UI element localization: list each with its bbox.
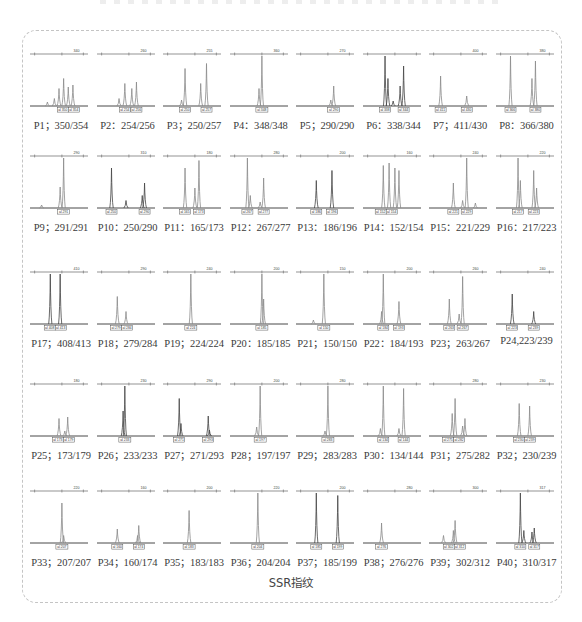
- svg-text:al 239: al 239: [529, 326, 538, 330]
- svg-text:al 174: al 174: [134, 545, 143, 549]
- allele-label-box: al 183: [183, 545, 195, 550]
- allele-peak: [254, 427, 258, 436]
- trace-plot: 160al 152al 154: [363, 150, 425, 226]
- svg-text:al 283: al 283: [323, 438, 332, 442]
- electropherogram-panel: 280al 275al 282P31；275/282: [429, 378, 491, 488]
- trace-plot: 280al 275al 282: [429, 378, 491, 454]
- svg-text:al 230: al 230: [514, 438, 523, 442]
- svg-text:al 267: al 267: [242, 210, 251, 214]
- allele-peak: [465, 96, 469, 106]
- allele-label-box: al 154: [386, 210, 397, 215]
- svg-text:al 223: al 223: [529, 210, 538, 214]
- allele-peak: [457, 314, 461, 324]
- svg-text:al 338: al 338: [380, 108, 389, 112]
- electropherogram-panel: 200al 184al 193P22：184/193: [363, 266, 425, 376]
- allele-peak: [381, 386, 384, 436]
- electropherogram-panel: 340al 350al 354P1；350/354: [30, 48, 92, 158]
- genotype-label: P33；207/207: [24, 554, 98, 569]
- allele-label-box: al 217: [512, 210, 523, 215]
- genotype-label: P38；276/276: [357, 554, 431, 569]
- trace-plot: 240al 223al 239: [496, 266, 558, 342]
- allele-peak: [71, 85, 75, 106]
- allele-peak: [461, 277, 464, 325]
- svg-text:al 196: al 196: [327, 210, 336, 214]
- genotype-label: P39；302/312: [423, 554, 497, 569]
- genotype-label: P24,223/239: [490, 335, 564, 346]
- allele-label-box: al 229: [461, 210, 472, 215]
- ruler-label: 220: [73, 486, 79, 490]
- allele-label-box: al 279: [110, 326, 121, 331]
- svg-text:al 183: al 183: [184, 545, 193, 549]
- allele-label-box: al 193: [393, 326, 404, 331]
- allele-label-box: al 199: [332, 545, 343, 550]
- ruler-label: 290: [73, 151, 79, 155]
- allele-peak: [465, 158, 468, 208]
- allele-peak: [311, 320, 315, 324]
- allele-peak: [258, 386, 261, 436]
- allele-label-box: al 250: [106, 210, 117, 215]
- allele-peak: [123, 201, 127, 209]
- allele-label-box: al 174: [133, 545, 144, 550]
- allele-peak: [451, 183, 455, 208]
- allele-label-box: al 338: [379, 108, 390, 113]
- ruler-label: 260: [140, 49, 146, 53]
- svg-text:al 185: al 185: [257, 326, 266, 330]
- allele-peak: [66, 87, 70, 106]
- svg-text:al 284: al 284: [122, 326, 131, 330]
- allele-label-box: al 350: [57, 108, 68, 113]
- allele-label-box: al 290: [328, 108, 340, 113]
- svg-text:al 186: al 186: [312, 210, 321, 214]
- allele-label-box: al 185: [311, 545, 322, 550]
- electropherogram-panel: 280al 283P29；283/283: [296, 378, 358, 488]
- svg-text:al 282: al 282: [455, 438, 464, 442]
- allele-peak: [473, 203, 477, 208]
- ruler-label: 317: [539, 486, 545, 490]
- allele-label-box: al 312: [454, 545, 465, 550]
- genotype-label: P31；275/282: [423, 447, 497, 462]
- svg-text:al 250: al 250: [180, 108, 189, 112]
- svg-text:al 310: al 310: [515, 545, 524, 549]
- trace-plot: 240al 224: [163, 266, 225, 342]
- allele-label-box: al 185: [255, 326, 267, 331]
- ruler-label: 280: [273, 151, 279, 155]
- svg-text:al 302: al 302: [444, 545, 453, 549]
- svg-text:al 173: al 173: [194, 210, 203, 214]
- ruler-label: 360: [273, 49, 279, 53]
- ruler-label: 260: [472, 267, 478, 271]
- allele-label-box: al 257: [201, 108, 212, 113]
- svg-text:al 239: al 239: [525, 438, 534, 442]
- electropherogram-panel: al 134al 144P30：134/144: [363, 378, 425, 488]
- allele-label-box: al 150: [318, 326, 330, 331]
- svg-text:al 134: al 134: [378, 438, 387, 442]
- genotype-label: P26；233/233: [91, 447, 165, 462]
- genotype-label: P40；310/317: [490, 554, 564, 569]
- allele-peak: [391, 101, 395, 106]
- allele-peak: [199, 84, 203, 107]
- allele-peak: [109, 168, 112, 208]
- allele-label-box: al 317: [528, 545, 539, 550]
- allele-label-box: al 230: [513, 438, 524, 443]
- allele-peak: [315, 493, 318, 543]
- svg-text:al 291: al 291: [59, 210, 68, 214]
- ruler-label: 270: [339, 49, 345, 53]
- ruler-label: 340: [73, 49, 79, 53]
- allele-peak: [115, 529, 119, 543]
- svg-text:al 267: al 267: [458, 326, 467, 330]
- genotype-label: P37；185/199: [290, 554, 364, 569]
- allele-label-box: al 134: [377, 438, 388, 443]
- genotype-label: P20：185/185: [224, 335, 298, 350]
- electropherogram-panel: 180al 165al 173P11：165/173: [163, 150, 225, 260]
- allele-peak: [52, 99, 56, 107]
- allele-label-box: al 354: [68, 108, 79, 113]
- allele-peak: [332, 86, 336, 106]
- allele-peak: [257, 89, 261, 107]
- svg-text:al 275: al 275: [444, 438, 453, 442]
- allele-label-box: al 276: [375, 545, 387, 550]
- allele-label-box: al 204: [251, 545, 263, 550]
- genotype-label: P18；279/284: [91, 335, 165, 350]
- allele-peak: [66, 417, 70, 436]
- trace-plot: 180al 173al 179: [30, 378, 92, 454]
- allele-peak: [134, 82, 138, 106]
- svg-text:al 257: al 257: [202, 108, 211, 112]
- trace-plot: 317al 310al 317: [496, 485, 558, 561]
